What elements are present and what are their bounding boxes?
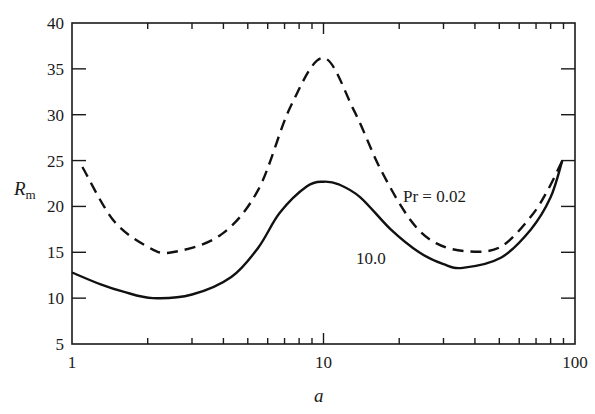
plot-frame — [72, 23, 575, 344]
x-axis-title: a — [314, 385, 324, 406]
y-tick-label: 5 — [56, 335, 65, 354]
curve-pr-0.02-dashed — [82, 58, 562, 253]
curve-pr-10-solid — [72, 161, 562, 299]
y-tick-label: 25 — [47, 152, 64, 171]
y-axis-title-main: R — [13, 178, 26, 199]
y-tick-label: 10 — [47, 289, 64, 308]
axis-ticks — [72, 23, 575, 344]
annotation-pr-0.02: Pr = 0.02 — [403, 187, 466, 206]
tick-labels: 510152025303540110100 — [47, 14, 588, 372]
data-curves — [72, 58, 562, 298]
y-axis-title: Rm — [13, 178, 36, 202]
y-tick-label: 30 — [47, 106, 64, 125]
x-tick-label: 10 — [315, 353, 332, 372]
y-tick-label: 35 — [47, 60, 64, 79]
x-tick-label: 100 — [562, 353, 588, 372]
x-tick-label: 1 — [68, 353, 77, 372]
y-tick-label: 40 — [47, 14, 64, 33]
chart-figure: 510152025303540110100 Pr = 0.02 10.0 a R… — [0, 0, 595, 414]
annotation-pr-10: 10.0 — [356, 249, 386, 268]
y-axis-title-subscript: m — [26, 187, 36, 202]
y-tick-label: 15 — [47, 243, 64, 262]
y-tick-label: 20 — [47, 197, 64, 216]
